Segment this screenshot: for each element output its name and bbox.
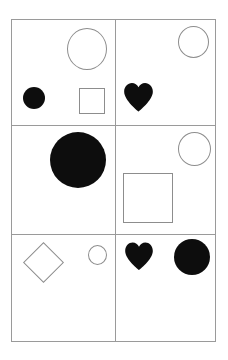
square-outline-shape [79, 88, 105, 114]
shape-grid [11, 19, 216, 342]
grid-cell-bottom-left [12, 235, 115, 343]
circle-outline-shape [178, 26, 209, 58]
shape-grid-figure [0, 0, 228, 360]
grid-cell-bottom-right [116, 235, 217, 343]
circle-outline-shape [67, 28, 107, 70]
grid-cell-top-left [12, 20, 115, 125]
circle-outline-shape [88, 245, 107, 265]
circle-filled-shape [23, 87, 45, 109]
circle-outline-shape [178, 132, 211, 166]
grid-cell-top-right [116, 20, 217, 125]
heart-filled-shape [124, 242, 154, 270]
circle-filled-shape [174, 239, 210, 275]
grid-cell-middle-left [12, 126, 115, 234]
diamond-outline-shape [23, 242, 64, 283]
heart-filled-shape [123, 82, 154, 112]
circle-filled-shape [50, 132, 106, 188]
square-outline-shape [123, 173, 173, 223]
grid-cell-middle-right [116, 126, 217, 234]
